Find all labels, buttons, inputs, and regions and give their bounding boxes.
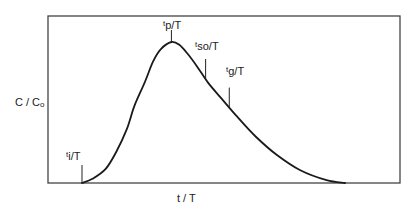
tso-t: t bbox=[195, 40, 197, 49]
tp-t: t bbox=[163, 19, 165, 28]
annotation-ti: ti/T bbox=[66, 151, 80, 162]
ti-den: /T bbox=[71, 150, 81, 162]
tso-sub: so bbox=[197, 40, 209, 52]
plot-frame bbox=[48, 16, 400, 183]
x-axis-label-text: t / T bbox=[177, 192, 196, 204]
y-axis-label-main: C / C bbox=[15, 96, 40, 108]
annotation-markers bbox=[82, 30, 229, 183]
ti-t: t bbox=[66, 150, 68, 159]
annotation-tg: tg/T bbox=[226, 66, 244, 77]
chart-canvas bbox=[0, 0, 415, 211]
tp-den: /T bbox=[171, 19, 181, 31]
concentration-curve bbox=[82, 42, 345, 183]
annotation-tp: tp/T bbox=[163, 20, 181, 31]
x-axis-label: t / T bbox=[177, 193, 196, 204]
y-axis-label: C / Co bbox=[15, 97, 45, 108]
tg-t: t bbox=[226, 65, 228, 74]
annotation-tso: tso/T bbox=[195, 41, 219, 52]
y-axis-label-sub: o bbox=[40, 100, 44, 109]
tg-den: /T bbox=[234, 65, 244, 77]
tso-den: /T bbox=[209, 40, 219, 52]
